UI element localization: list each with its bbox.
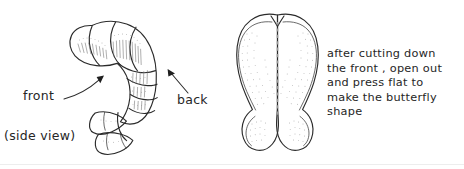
prawn-segment-seam-1 xyxy=(111,22,121,65)
butterfly-left-shading xyxy=(242,33,275,142)
prawn-tail-shading xyxy=(133,71,148,110)
prawn-side-view-drawing xyxy=(70,21,157,154)
prawn-tail-band-2 xyxy=(127,79,157,86)
back-annotation-arrow xyxy=(168,69,188,93)
label-front: front xyxy=(23,88,54,103)
prawn-tail-fan-rib-1 xyxy=(104,112,106,130)
prawn-tail-fan-rib-2 xyxy=(106,134,108,150)
instruction-line-4: make the butterfly xyxy=(327,91,463,106)
butterfly-right-shading xyxy=(281,33,314,142)
prawn-tail-fan-upper xyxy=(90,112,127,135)
butterflied-prawn-drawing xyxy=(237,14,319,150)
instruction-line-1: after cutting down xyxy=(327,47,463,62)
front-annotation-arrow xyxy=(64,75,104,99)
prawn-tail-fan-lower xyxy=(95,133,132,155)
label-side-view: (side view) xyxy=(4,128,75,143)
instruction-line-3: and press flat to xyxy=(327,76,463,91)
prawn-head-shading xyxy=(78,43,107,59)
prawn-tail-band-3 xyxy=(130,95,157,100)
illustration-figure: front back (side view) after cutting dow… xyxy=(0,0,464,169)
instruction-line-5: shape xyxy=(327,105,463,120)
butterfly-left-tail-rim xyxy=(246,116,255,145)
label-back: back xyxy=(177,92,208,107)
butterfly-right-tail-rim xyxy=(300,116,309,145)
prawn-tail-band-4 xyxy=(129,108,155,113)
butterfly-right-inner-rim xyxy=(283,22,316,110)
prawn-head-seam xyxy=(89,26,99,66)
butterfly-left-inner-rim xyxy=(239,22,272,110)
instruction-line-2: the front , open out xyxy=(327,62,463,77)
instructions-text-block: after cutting down the front , open out … xyxy=(327,47,463,120)
prawn-tail-fan-middle xyxy=(118,113,127,141)
prawn-segment-seam-2 xyxy=(130,27,138,71)
